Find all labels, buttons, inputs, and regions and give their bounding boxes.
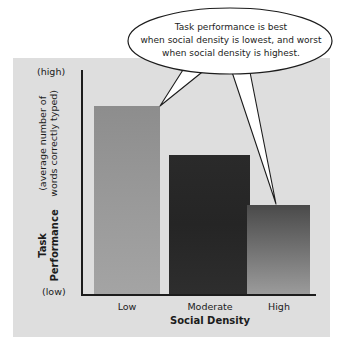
x-tick-moderate: Moderate	[168, 301, 252, 312]
callout-line-1: Task performance is best	[133, 21, 329, 34]
y-axis-title: Task Performance	[37, 209, 60, 281]
callout-text: Task performance is best when social den…	[133, 21, 329, 60]
x-axis-line	[81, 294, 316, 296]
bar-moderate	[169, 155, 250, 294]
x-tick-high: High	[248, 301, 310, 312]
bar-high	[247, 205, 310, 294]
y-axis-low-label: (low)	[42, 286, 66, 297]
y-axis-high-label: (high)	[37, 66, 65, 77]
y-axis-line	[81, 70, 83, 296]
callout-line-3: when social density is highest.	[133, 47, 329, 60]
x-axis-title: Social Density	[140, 315, 280, 326]
bar-low	[94, 106, 160, 294]
y-axis-subtitle: (average number of words correctly typed…	[37, 82, 59, 206]
y-axis-title-group: Task Performance (average number of word…	[37, 82, 60, 282]
x-tick-low: Low	[97, 301, 157, 312]
figure: (high) (low) Task Performance (average n…	[0, 0, 347, 349]
callout-line-2: when social density is lowest, and worst	[133, 34, 329, 47]
